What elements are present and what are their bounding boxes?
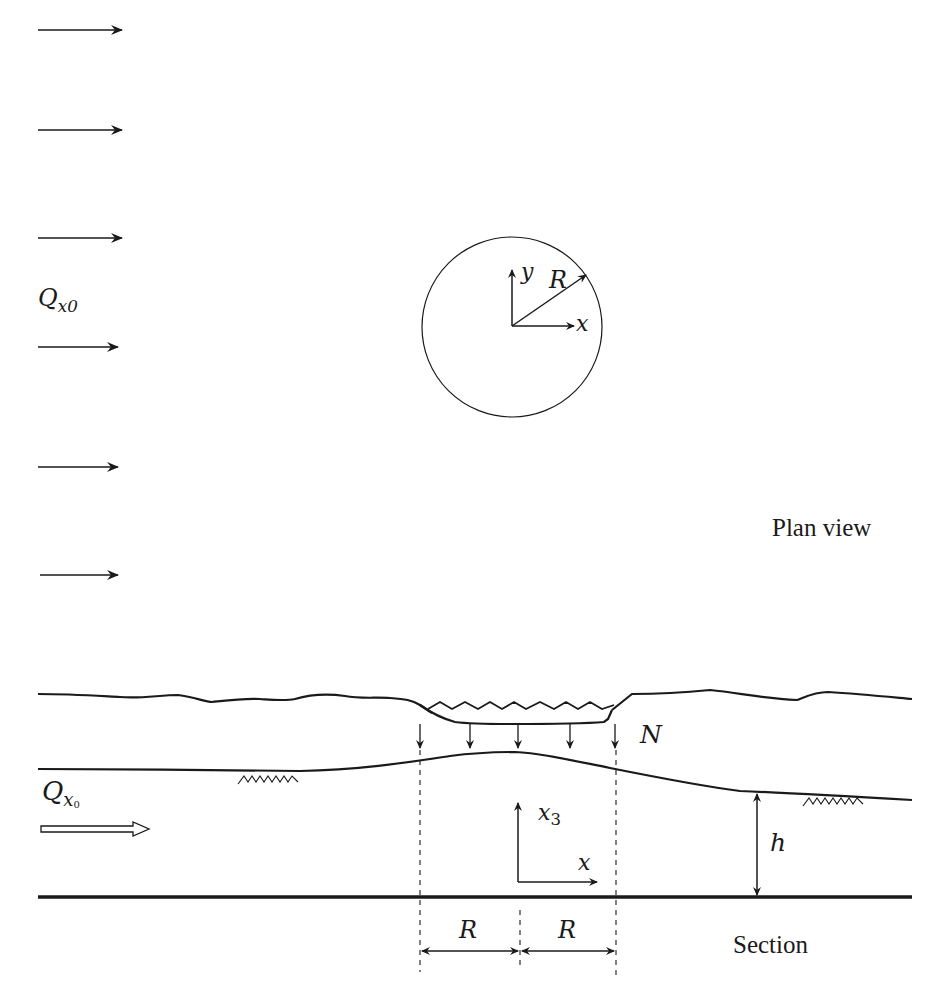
flow-subscript-x: x [63, 789, 73, 810]
flow-symbol: Q [38, 284, 58, 312]
hollow-flow-arrow-icon [41, 822, 149, 836]
x3-symbol: x [538, 800, 550, 825]
flow-subscript-0: 0 [74, 799, 80, 810]
flow-subscript: x0 [58, 296, 78, 316]
dimension-label-right: R [558, 918, 576, 942]
section-caption: Section [733, 932, 808, 957]
plan-x-axis-label: x [576, 313, 588, 335]
section-flow-label: Qx0 [42, 778, 80, 810]
water-table-line [38, 752, 912, 800]
recharge-area-circle [422, 237, 602, 417]
flow-subscript: x0 [63, 789, 80, 810]
flow-symbol: Q [42, 776, 63, 806]
plan-flow-label: Qx0 [38, 286, 78, 315]
x3-subscript: 3 [550, 810, 561, 829]
diagram-graphics [0, 0, 947, 996]
water-table-hatch-right [803, 798, 863, 806]
plan-y-axis-label: y [521, 261, 533, 283]
plan-view-caption: Plan view [772, 515, 871, 540]
diagram-canvas: Qx0 y R x Plan view N Qx0 x3 x h R R Sec… [0, 0, 947, 996]
thickness-label: h [770, 830, 786, 855]
section-vertical-axis-label: x3 [538, 802, 561, 828]
recharge-label: N [640, 722, 662, 747]
water-table-hatch-left [238, 776, 298, 784]
pond-water-surface [428, 702, 614, 709]
ground-surface-line [38, 690, 912, 713]
section-x-axis-label: x [578, 852, 590, 874]
plan-radius-label: R [549, 268, 567, 292]
dimension-label-left: R [459, 918, 477, 942]
recharge-arrows [420, 724, 615, 748]
